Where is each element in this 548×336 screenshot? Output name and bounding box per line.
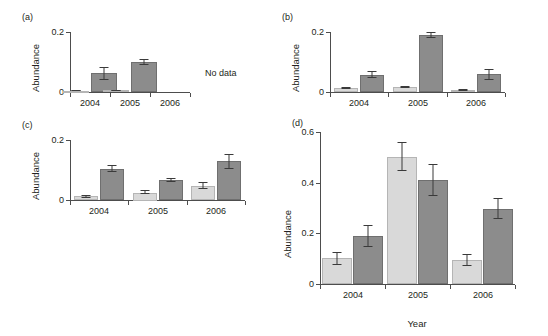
error-bar-d-2005-dark xyxy=(418,164,448,196)
panel-d: (d)00.20.40.6Abundance200420052006Year xyxy=(0,0,548,336)
error-bar-cap-lower xyxy=(429,195,438,196)
error-bar-d-2004-light xyxy=(322,252,352,265)
x-axis-d xyxy=(320,284,515,285)
error-bar-stem xyxy=(368,225,369,247)
x-tick-d-2 xyxy=(450,285,451,289)
error-bar-cap-upper xyxy=(364,225,373,226)
error-bar-d-2006-light xyxy=(452,254,482,266)
y-tick-label-d-2: 0.4 xyxy=(286,179,314,188)
x-tick-d-0 xyxy=(320,285,321,289)
y-axis-label-d: Abundance xyxy=(282,210,293,258)
error-bar-stem xyxy=(498,198,499,219)
y-tick-label-d-3: 0.6 xyxy=(286,128,314,137)
error-bar-cap-upper xyxy=(333,252,342,253)
figure-panel-grid: (a)00.2Abundance200420052006No data(b)00… xyxy=(0,0,548,336)
error-bar-cap-lower xyxy=(398,170,407,171)
y-tick-label-d-0: 0 xyxy=(286,280,314,289)
x-tick-d-end xyxy=(515,285,516,289)
error-bar-d-2005-light xyxy=(387,142,417,171)
y-tick-d-3 xyxy=(316,132,320,133)
x-tick-label-d-2: 2006 xyxy=(457,291,509,300)
error-bar-cap-upper xyxy=(429,164,438,165)
error-bar-cap-lower xyxy=(364,246,373,247)
error-bar-stem xyxy=(433,164,434,196)
bar-d-2006-dark xyxy=(483,209,513,284)
error-bar-cap-lower xyxy=(494,218,503,219)
error-bar-cap-upper xyxy=(494,198,503,199)
x-axis-label-d: Year xyxy=(387,318,447,329)
bar-d-2005-light xyxy=(387,157,417,284)
error-bar-cap-upper xyxy=(463,254,472,255)
y-tick-d-1 xyxy=(316,233,320,234)
error-bar-cap-upper xyxy=(398,142,407,143)
error-bar-stem xyxy=(402,142,403,171)
x-tick-d-1 xyxy=(385,285,386,289)
y-axis-d xyxy=(320,132,321,285)
x-tick-label-d-1: 2005 xyxy=(392,291,444,300)
error-bar-cap-lower xyxy=(463,265,472,266)
error-bar-cap-lower xyxy=(333,264,342,265)
y-tick-d-2 xyxy=(316,183,320,184)
error-bar-d-2006-dark xyxy=(483,198,513,219)
x-tick-label-d-0: 2004 xyxy=(327,291,379,300)
error-bar-d-2004-dark xyxy=(353,225,383,247)
